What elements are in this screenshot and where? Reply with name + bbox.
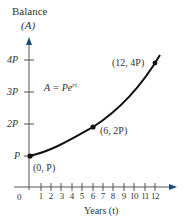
equation-label: A = Pert xyxy=(44,80,77,93)
y-axis-title: Balance xyxy=(12,6,47,16)
x-axis-title: Years (t) xyxy=(84,206,118,216)
equation-text: A = Pe xyxy=(44,82,72,93)
y-tick-label-2P: 2P xyxy=(7,119,18,129)
y-axis-arrow-icon xyxy=(26,37,32,45)
point-label-6-2P: (6, 2P) xyxy=(100,126,127,136)
equation-exponent: rt xyxy=(72,81,77,89)
point-6-2P xyxy=(90,124,95,129)
x-tick-label-12: 12 xyxy=(149,192,161,201)
origin-label: 0 xyxy=(17,192,22,202)
y-axis-variable: (A) xyxy=(21,20,35,30)
point-label-12-4P: (12, 4P) xyxy=(112,58,144,68)
point-label-0-P: (0, P) xyxy=(33,163,55,173)
point-0-P xyxy=(27,153,32,158)
growth-curve xyxy=(29,55,160,156)
x-axis-arrow-icon xyxy=(169,184,177,190)
y-tick-label-P: P xyxy=(14,151,20,161)
point-12-4P xyxy=(153,61,158,66)
y-tick-label-3P: 3P xyxy=(7,87,18,97)
y-tick-label-4P: 4P xyxy=(7,55,18,65)
